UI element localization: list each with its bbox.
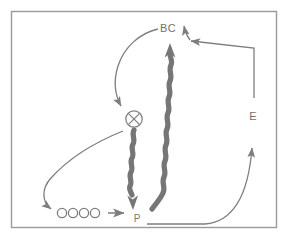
chain-circle — [79, 208, 88, 217]
chain-circle — [90, 208, 99, 217]
chain-circle — [68, 208, 77, 217]
figure-root: BC E P — [0, 0, 292, 240]
diagram-canvas: BC E P — [0, 0, 292, 240]
crossed-circle-icon — [126, 111, 142, 127]
node-e-label: E — [249, 110, 257, 122]
node-p-label: P — [134, 213, 141, 224]
chain-circle — [57, 208, 66, 217]
figure-border — [12, 12, 277, 228]
node-bc-label: BC — [160, 22, 176, 34]
